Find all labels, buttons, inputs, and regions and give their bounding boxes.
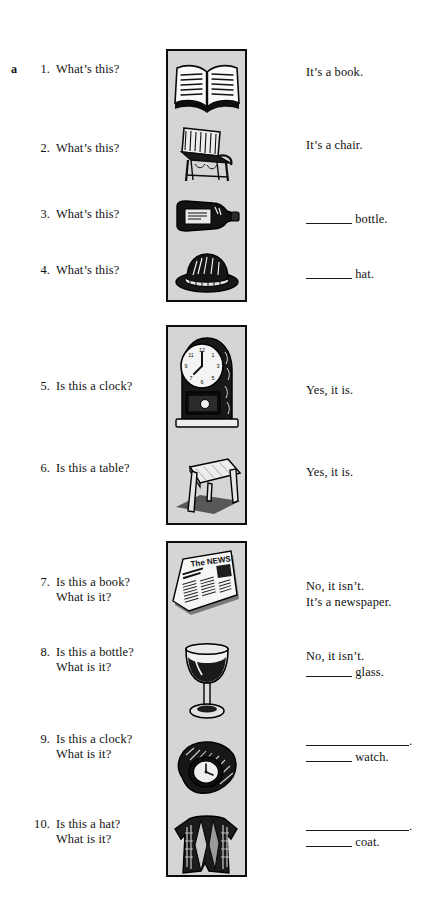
svg-text:6: 6	[200, 379, 203, 385]
answer-text-line2-wrap: watch.	[306, 749, 389, 765]
wristwatch-icon	[170, 737, 244, 801]
wine-glass-icon	[178, 639, 236, 725]
answer-row-6: Yes, it is.	[306, 464, 428, 480]
answer-blank[interactable]	[306, 268, 352, 279]
question-number: 5.	[25, 379, 50, 394]
armchair-icon	[171, 123, 243, 185]
question-text: What’s this?	[56, 62, 119, 77]
answer-row-8: No, it isn’t. glass.	[306, 648, 428, 664]
question-number: 8.	[25, 645, 50, 660]
table-icon	[170, 439, 244, 519]
question-number: 7.	[25, 575, 50, 590]
mantel-clock-icon: 1213 567 911	[172, 334, 242, 430]
svg-text:11: 11	[188, 352, 194, 358]
answer-text: Yes, it is.	[306, 383, 353, 397]
question-text: What’s this?	[56, 141, 119, 156]
question-number: 1.	[25, 62, 50, 77]
question-text: Is this a clock?	[56, 732, 132, 747]
answer-row-5: Yes, it is.	[306, 382, 428, 398]
question-number: 6.	[25, 461, 50, 476]
illustration-panel-1	[166, 49, 247, 302]
answer-text-line2: It’s a newspaper.	[306, 594, 391, 610]
question-number: 9.	[25, 732, 50, 747]
svg-text:7: 7	[189, 375, 192, 381]
answer-blank[interactable]	[306, 666, 352, 677]
hat-icon	[173, 249, 241, 295]
open-book-icon	[169, 59, 245, 117]
answer-row-2: It’s a chair.	[306, 137, 428, 153]
question-number: 3.	[25, 207, 50, 222]
answer-row-4: hat.	[306, 266, 428, 282]
answer-blank[interactable]	[306, 836, 352, 847]
bottle-icon	[171, 196, 243, 236]
worksheet-page: a 1. What’s this? 2. What’s this? 3. Wha…	[0, 0, 428, 908]
answer-blank[interactable]	[306, 213, 352, 224]
svg-text:1: 1	[211, 352, 214, 358]
question-number: 4.	[25, 263, 50, 278]
answer-line1-wrap: .	[306, 734, 412, 748]
answer-row-7: No, it isn’t. It’s a newspaper.	[306, 578, 428, 594]
answer-text-line2-wrap: glass.	[306, 664, 384, 680]
answer-text-line2: glass.	[355, 665, 384, 679]
answer-blank[interactable]	[306, 751, 352, 762]
illustration-panel-3: The NEWS	[166, 541, 247, 877]
question-text: Is this a book?	[56, 575, 130, 590]
question-text: Is this a clock?	[56, 379, 132, 394]
svg-text:5: 5	[211, 375, 214, 381]
answer-text: Yes, it is.	[306, 465, 353, 479]
section-letter: a	[11, 62, 17, 77]
question-text: Is this a hat?	[56, 817, 120, 832]
question-text-line2: What is it?	[56, 747, 111, 762]
answer-text: .	[409, 734, 412, 748]
question-text-line2: What is it?	[56, 590, 111, 605]
question-text: Is this a bottle?	[56, 645, 134, 660]
answer-text-line2: coat.	[355, 835, 380, 849]
svg-text:9: 9	[184, 363, 187, 369]
answer-blank[interactable]	[306, 820, 409, 831]
answer-text: It’s a chair.	[306, 138, 363, 152]
answer-text: It’s a book.	[306, 65, 363, 79]
coat-icon	[171, 815, 243, 877]
answer-row-1: It’s a book.	[306, 64, 428, 80]
question-text: Is this a table?	[56, 461, 130, 476]
svg-text:3: 3	[216, 363, 219, 369]
answer-line1-wrap: .	[306, 819, 412, 833]
question-number: 10.	[25, 817, 50, 832]
answer-row-9: . watch.	[306, 733, 428, 749]
answer-text: hat.	[355, 267, 374, 281]
answer-text: No, it isn’t.	[306, 649, 364, 663]
svg-text:12: 12	[199, 347, 205, 353]
question-text-line2: What is it?	[56, 832, 111, 847]
illustration-panel-2: 1213 567 911	[166, 325, 247, 525]
answer-row-3: bottle.	[306, 211, 428, 227]
answer-text: .	[409, 819, 412, 833]
answer-row-10: . coat.	[306, 818, 428, 834]
question-text: What’s this?	[56, 207, 119, 222]
answer-text: bottle.	[355, 212, 387, 226]
question-text-line2: What is it?	[56, 660, 111, 675]
answer-blank[interactable]	[306, 735, 409, 746]
question-text: What’s this?	[56, 263, 119, 278]
answer-text-line2-wrap: coat.	[306, 834, 380, 850]
newspaper-icon: The NEWS	[169, 549, 245, 627]
question-number: 2.	[25, 141, 50, 156]
answer-text: No, it isn’t.	[306, 579, 364, 593]
answer-text-line2: watch.	[355, 750, 389, 764]
